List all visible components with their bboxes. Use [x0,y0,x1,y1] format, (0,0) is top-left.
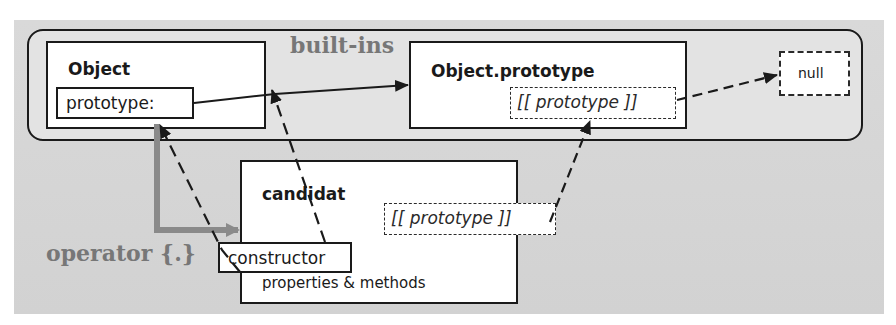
prototype-link-arrow [194,85,408,103]
operator-arrow [157,124,238,230]
diagram-edges [0,0,896,325]
constructor-to-object-arrow [272,90,325,242]
object-prototype-to-null-arrow [677,75,777,100]
constructor-to-prototype-field-arrow [160,125,240,272]
candidat-proto-chain-arrow [550,121,590,222]
